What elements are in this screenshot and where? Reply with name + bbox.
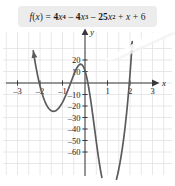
operator-3: + xyxy=(118,12,123,22)
term4-variable: x xyxy=(126,12,130,22)
operator-1: – xyxy=(68,12,73,22)
y-axis-label: y xyxy=(89,28,94,37)
x-tick-label: 1 xyxy=(105,86,109,96)
term1-variable: x xyxy=(58,12,62,22)
x-tick-label: 3 xyxy=(150,86,154,96)
curve-left-arrowhead xyxy=(32,51,38,58)
y-axis-arrowhead xyxy=(82,29,89,36)
operator-4: + xyxy=(133,12,138,22)
term3-coefficient: 25 xyxy=(98,12,108,22)
equation-equals: = xyxy=(45,12,50,22)
equation-paren-close: ) xyxy=(40,12,43,22)
y-tick-label: –10 xyxy=(67,90,81,100)
polynomial-graph-figure: f(x) = 4x4 – 4x3 – 25x2 + x + 6 –3–2–112… xyxy=(0,0,175,186)
y-tick-label: –50 xyxy=(67,136,81,146)
y-tick-label: –30 xyxy=(67,113,81,123)
x-axis-label: x xyxy=(161,78,166,88)
y-tick-label: 20 xyxy=(72,55,81,65)
term5-constant: 6 xyxy=(141,12,146,22)
function-curve xyxy=(33,41,132,179)
y-tick-label: –20 xyxy=(67,101,81,111)
gridlines xyxy=(3,32,172,175)
y-tick-label: –40 xyxy=(67,124,81,134)
y-tick-label: –60 xyxy=(67,147,81,157)
x-tick-label: –3 xyxy=(12,86,22,96)
coordinate-plane: –3–2–11232010–10–20–30–40–50–60 x y xyxy=(0,28,175,186)
operator-2: – xyxy=(91,12,96,22)
equation-label: f(x) = 4x4 – 4x3 – 25x2 + x + 6 xyxy=(18,6,157,27)
